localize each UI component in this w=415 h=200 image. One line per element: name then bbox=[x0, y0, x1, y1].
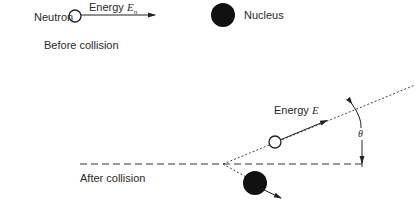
nucleus-after bbox=[243, 171, 267, 195]
energy-label-before: Energy En bbox=[89, 1, 137, 18]
energy-arrow-after bbox=[281, 121, 327, 140]
before-collision-caption: Before collision bbox=[44, 39, 119, 51]
energy-label-after: Energy E bbox=[274, 104, 319, 116]
angle-theta-label: θ bbox=[358, 128, 363, 140]
nucleus-label: Nucleus bbox=[244, 9, 284, 21]
collision-diagram bbox=[0, 0, 415, 200]
nucleus-trajectory bbox=[223, 164, 248, 178]
angle-arc-upper bbox=[352, 104, 361, 128]
neutron-label: Neutron bbox=[34, 11, 73, 23]
neutron-after bbox=[269, 136, 281, 148]
nucleus-before bbox=[211, 3, 235, 27]
neutron-trajectory bbox=[223, 85, 415, 164]
nucleus-recoil-arrow bbox=[262, 189, 281, 198]
after-collision-caption: After collision bbox=[80, 172, 145, 184]
